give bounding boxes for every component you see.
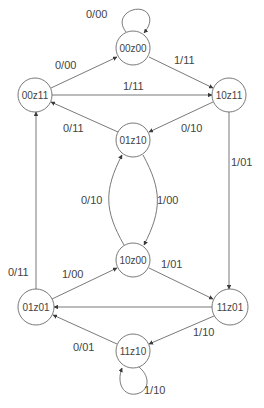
state-label: 10z11 [216, 90, 243, 101]
state-00z00: 00z00 [116, 31, 150, 65]
transition-label: 1/01 [231, 156, 252, 168]
edge-00z00-self [122, 9, 150, 33]
state-10z00: 10z00 [116, 243, 150, 277]
transition-label: 0/00 [86, 8, 107, 20]
transition-label: 1/01 [161, 258, 182, 270]
transition-label: 0/11 [63, 122, 84, 134]
transition-label: 0/11 [8, 266, 29, 278]
edge-10z00-to-11z01 [149, 268, 213, 299]
edge-01z10-to-10z00 [143, 155, 157, 245]
transition-label: 0/10 [81, 194, 102, 206]
state-label: 01z10 [119, 135, 147, 146]
edge-11z10-to-01z01 [53, 315, 117, 344]
state-10z11: 10z11 [212, 78, 246, 112]
transition-label: 1/11 [123, 80, 144, 92]
state-diagram: 00z00 00z11 10z11 01z10 10z00 01z01 11z0… [0, 0, 264, 408]
state-label: 11z01 [217, 302, 244, 313]
edge-01z10-to-00z11 [51, 102, 118, 132]
transition-label: 1/10 [144, 384, 165, 396]
transition-label: 1/10 [193, 326, 214, 338]
state-00z11: 00z11 [18, 78, 52, 112]
state-11z01: 11z01 [212, 289, 248, 325]
state-01z10: 01z10 [116, 123, 150, 157]
state-11z10: 11z10 [116, 334, 150, 368]
state-label: 11z10 [120, 346, 147, 357]
state-label: 00z00 [119, 43, 147, 54]
transition-label: 0/01 [73, 341, 94, 353]
edge-11z10-self [120, 367, 147, 394]
state-label: 01z01 [22, 302, 50, 313]
state-01z01: 01z01 [18, 289, 54, 325]
state-label: 00z11 [22, 90, 49, 101]
transition-label: 1/00 [62, 268, 83, 280]
edge-10z00-to-01z10 [109, 155, 124, 245]
transition-label: 1/00 [157, 194, 178, 206]
transition-label: 0/10 [181, 122, 202, 134]
state-label: 10z00 [119, 255, 147, 266]
transition-label: 0/00 [55, 59, 76, 71]
transition-label: 1/11 [174, 54, 195, 66]
